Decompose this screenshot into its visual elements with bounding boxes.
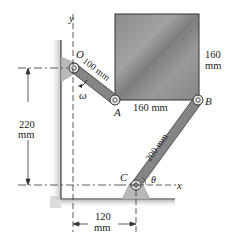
omega-arrowhead-icon	[78, 84, 82, 88]
label-plate-height-unit: mm	[205, 60, 221, 71]
label-120-value: 120	[95, 211, 111, 222]
pin-b	[193, 95, 203, 105]
x-axis-label: x	[176, 179, 182, 191]
square-plate	[115, 14, 199, 100]
label-plate-height-value: 160	[205, 49, 221, 60]
label-c: C	[120, 171, 128, 183]
label-a: A	[113, 106, 121, 118]
mechanism-diagram: y O 100 mm ω A 160 mm B 160 mm 200 mm C …	[0, 0, 234, 244]
pin-a	[110, 95, 120, 105]
label-plate-width: 160 mm	[133, 102, 168, 113]
label-220-unit: mm	[18, 129, 34, 140]
label-theta: θ	[151, 174, 156, 185]
label-120-unit: mm	[94, 222, 110, 233]
pin-o	[69, 63, 79, 73]
label-omega: ω	[79, 89, 87, 101]
label-o: O	[76, 48, 84, 60]
y-axis-label: y	[68, 12, 74, 24]
label-b: B	[205, 95, 212, 107]
